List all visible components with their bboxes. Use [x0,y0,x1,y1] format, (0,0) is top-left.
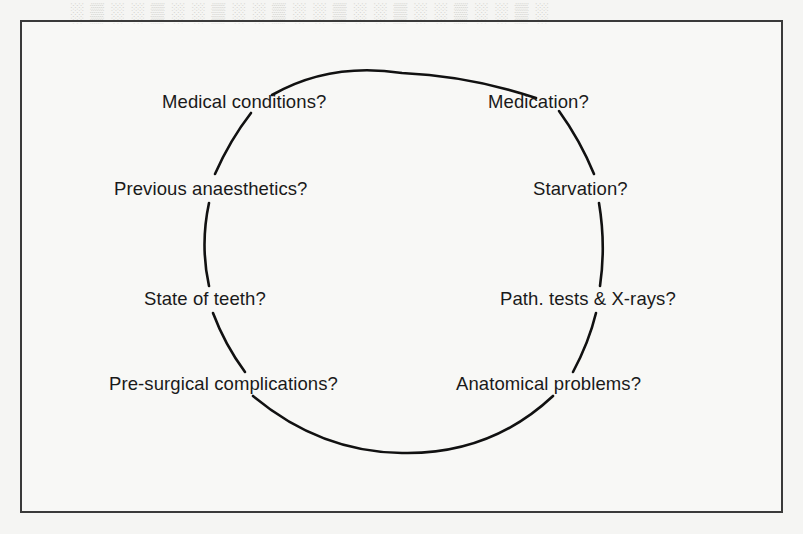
arc-bottom [253,396,553,453]
label-state-of-teeth: State of teeth? [144,288,266,310]
arc-right-upper [559,111,594,174]
label-pre-surgical-complications: Pre-surgical complications? [109,373,338,395]
cycle-circle [0,0,803,534]
document-page: ░ ▒ ░ ░ ▒ ░ ░ ▒ ░ ░ ▒ ░ ░ ▒ ░ ░ ▒ ░ ░ ▒ … [0,0,803,534]
arc-right-lower [573,313,596,372]
arc-left-upper [215,113,251,174]
label-path-tests-xrays: Path. tests & X-rays? [500,288,676,310]
label-anatomical-problems: Anatomical problems? [456,373,641,395]
label-medical-conditions: Medical conditions? [162,91,326,113]
arc-right-middle [599,203,603,286]
arc-left-middle [205,203,210,286]
arc-left-lower [213,313,245,372]
label-starvation: Starvation? [533,178,628,200]
label-previous-anaesthetics: Previous anaesthetics? [114,178,307,200]
label-medication: Medication? [488,91,589,113]
